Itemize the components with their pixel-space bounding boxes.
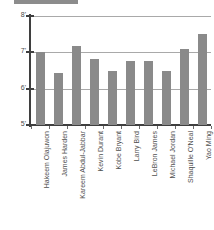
x-axis-category-labels: Hakeem OlajuwonJames HardenKareem Abdul-… (0, 0, 214, 230)
x-category-label: Kareem Abdul-Jabbar (79, 131, 87, 199)
x-category-label: LeBron James (151, 131, 159, 176)
x-category-label: Kobe Bryant (115, 131, 123, 170)
x-category-label: Shaquille O'Neal (187, 131, 195, 183)
x-category-label: James Harden (61, 131, 69, 177)
x-category-label: Kevin Durant (97, 131, 105, 171)
x-category-label: Hakeem Olajuwon (43, 131, 51, 188)
x-category-label: Larry Bird (133, 131, 141, 161)
bar-chart: 5'6'7'8' Hakeem OlajuwonJames HardenKare… (0, 0, 214, 230)
x-category-label: Michael Jordan (169, 131, 177, 178)
x-category-label: Yao Ming (205, 131, 213, 160)
